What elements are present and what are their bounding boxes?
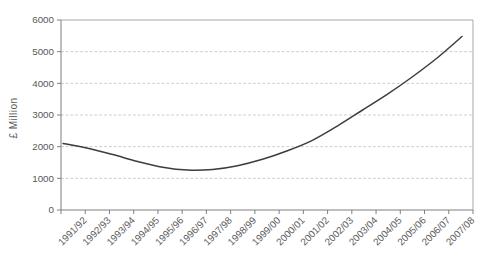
y-tick-label: 3000 (32, 109, 54, 120)
y-axis-title: £ Million (8, 97, 19, 138)
y-tick-label: 0 (49, 204, 55, 215)
y-tick-label: 2000 (32, 141, 54, 152)
data-series-line (63, 36, 462, 170)
y-tick-label: 5000 (32, 46, 54, 57)
chart-svg: 01000200030004000500060001991/921992/931… (0, 0, 491, 266)
y-tick-label: 1000 (32, 173, 54, 184)
line-chart: £ Million 01000200030004000500060001991/… (0, 0, 491, 266)
y-tick-label: 4000 (32, 78, 54, 89)
y-tick-label: 6000 (32, 14, 54, 25)
